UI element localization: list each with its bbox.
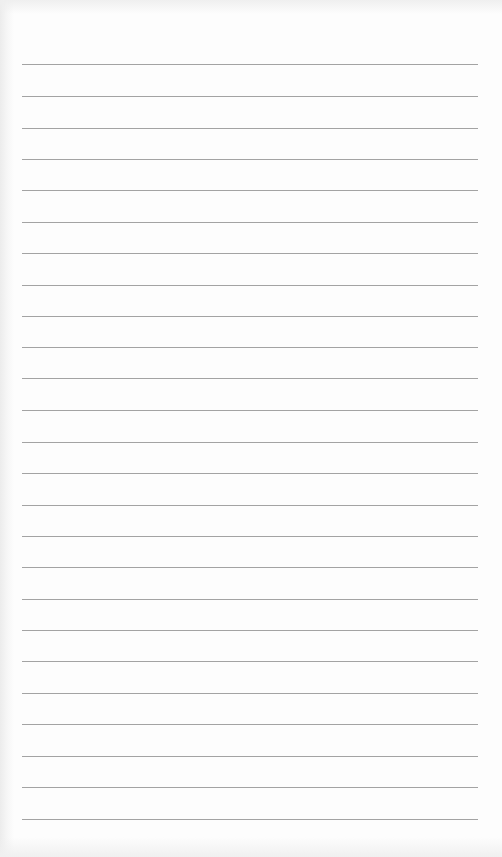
ruled-line	[22, 567, 478, 568]
ruled-line	[22, 190, 478, 191]
ruled-line	[22, 724, 478, 725]
ruled-line	[22, 473, 478, 474]
ruled-line	[22, 442, 478, 443]
ruled-line	[22, 787, 478, 788]
ruled-line	[22, 536, 478, 537]
left-edge-shadow	[0, 0, 14, 857]
ruled-line	[22, 96, 478, 97]
top-edge-shadow	[0, 0, 502, 14]
ruled-line	[22, 630, 478, 631]
ruled-line	[22, 410, 478, 411]
ruled-line	[22, 64, 478, 65]
ruled-line	[22, 347, 478, 348]
ruled-line	[22, 599, 478, 600]
ruled-line	[22, 819, 478, 820]
ruled-line	[22, 253, 478, 254]
ruled-line	[22, 661, 478, 662]
lined-paper-page	[0, 0, 502, 857]
ruled-line	[22, 693, 478, 694]
ruled-line	[22, 505, 478, 506]
ruled-line	[22, 128, 478, 129]
bottom-edge-shadow	[0, 837, 502, 857]
ruled-line	[22, 316, 478, 317]
ruled-line	[22, 222, 478, 223]
ruled-line	[22, 756, 478, 757]
ruled-line	[22, 378, 478, 379]
ruled-line	[22, 159, 478, 160]
ruled-line	[22, 285, 478, 286]
